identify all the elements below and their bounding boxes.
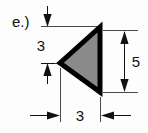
dimension-bottom-horizontal-3: 3 bbox=[30, 107, 131, 124]
triangle-shape bbox=[60, 27, 100, 92]
triangle-fill bbox=[60, 27, 100, 92]
dimension-value-bottom-3: 3 bbox=[76, 107, 84, 124]
arrowhead-up-bottom bbox=[43, 63, 51, 76]
dimension-right-vertical-5: 5 bbox=[120, 31, 140, 92]
arrowhead-down-right bbox=[120, 79, 128, 92]
geometry-figure-panel: 3 5 3 e.) bbox=[0, 0, 148, 133]
figure-canvas: 3 5 3 e.) bbox=[0, 0, 148, 133]
arrowhead-left-bottom-right bbox=[101, 111, 114, 119]
dimension-top-vertical-3: 3 bbox=[37, 6, 55, 84]
arrowhead-up-right bbox=[120, 31, 128, 44]
arrowhead-down-top bbox=[43, 14, 51, 27]
dimension-value-top-3: 3 bbox=[37, 37, 45, 54]
dimension-value-right-5: 5 bbox=[132, 53, 140, 70]
problem-label: e.) bbox=[12, 13, 30, 30]
arrowhead-right-bottom-left bbox=[47, 111, 60, 119]
